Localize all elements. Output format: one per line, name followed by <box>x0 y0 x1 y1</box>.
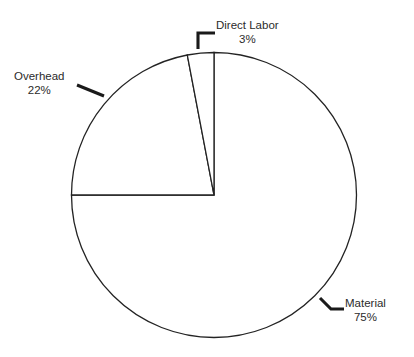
pie-label-material: Material 75% <box>345 297 386 324</box>
pie-label-overhead: Overhead 22% <box>14 70 65 97</box>
pie-chart: Direct Labor 3% Overhead 22% Material 75… <box>0 0 414 357</box>
pie-label-material-name: Material <box>345 297 386 311</box>
pie-label-overhead-value: 22% <box>14 84 65 98</box>
pie-label-direct-labor-value: 3% <box>216 33 279 47</box>
leader-line-overhead <box>77 85 104 96</box>
leader-line-direct-labor <box>198 33 215 49</box>
leader-line-material <box>320 298 344 309</box>
pie-label-direct-labor: Direct Labor 3% <box>216 19 279 46</box>
pie-label-material-value: 75% <box>345 311 386 325</box>
pie-label-overhead-name: Overhead <box>14 70 65 84</box>
pie-label-direct-labor-name: Direct Labor <box>216 19 279 33</box>
